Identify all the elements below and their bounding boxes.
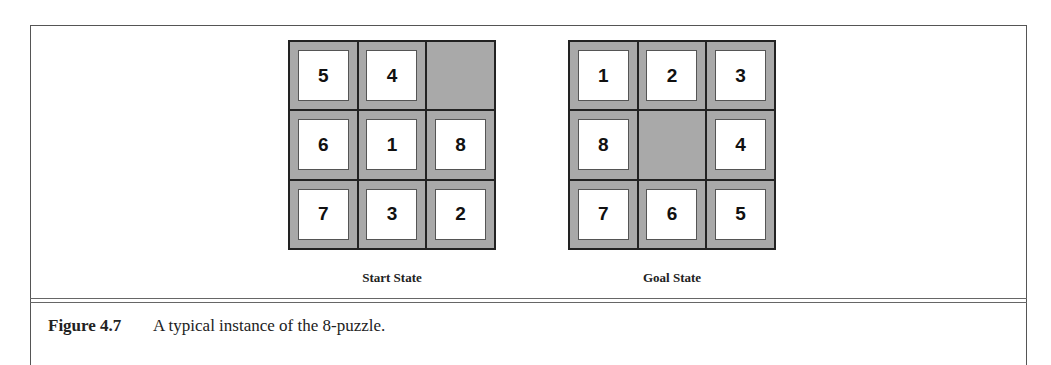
blank-cell bbox=[426, 41, 495, 110]
tile: 7 bbox=[578, 189, 629, 240]
tile: 4 bbox=[715, 119, 766, 170]
goal-state-board: 1 2 3 8 4 7 6 5 bbox=[568, 40, 776, 250]
tile: 5 bbox=[298, 50, 349, 101]
tile: 3 bbox=[715, 50, 766, 101]
tile: 3 bbox=[366, 189, 417, 240]
tile: 4 bbox=[366, 50, 417, 101]
board-cell: 8 bbox=[426, 110, 495, 179]
board-cell: 5 bbox=[289, 41, 358, 110]
tile: 6 bbox=[646, 189, 697, 240]
board-cell: 2 bbox=[638, 41, 707, 110]
board-cell: 1 bbox=[358, 110, 427, 179]
board-cell: 2 bbox=[426, 180, 495, 249]
board-cell: 4 bbox=[706, 110, 775, 179]
tile: 1 bbox=[366, 119, 417, 170]
tile: 2 bbox=[646, 50, 697, 101]
tile: 1 bbox=[578, 50, 629, 101]
tile: 5 bbox=[715, 189, 766, 240]
board-cell: 5 bbox=[706, 180, 775, 249]
tile: 2 bbox=[435, 189, 486, 240]
caption-divider-bottom bbox=[30, 302, 1027, 303]
figure-number: Figure 4.7 bbox=[48, 316, 153, 336]
blank-cell bbox=[638, 110, 707, 179]
board-cell: 8 bbox=[569, 110, 638, 179]
board-cell: 3 bbox=[706, 41, 775, 110]
board-cell: 4 bbox=[358, 41, 427, 110]
figure-frame bbox=[30, 25, 1027, 365]
start-state-label: Start State bbox=[288, 270, 496, 286]
tile: 8 bbox=[578, 119, 629, 170]
tile: 6 bbox=[298, 119, 349, 170]
start-state-board: 5 4 6 1 8 7 3 2 bbox=[288, 40, 496, 250]
board-cell: 3 bbox=[358, 180, 427, 249]
figure-caption-text: A typical instance of the 8-puzzle. bbox=[153, 316, 385, 335]
goal-state-label: Goal State bbox=[568, 270, 776, 286]
figure-caption: Figure 4.7A typical instance of the 8-pu… bbox=[48, 316, 385, 336]
board-cell: 7 bbox=[289, 180, 358, 249]
board-cell: 6 bbox=[289, 110, 358, 179]
tile: 8 bbox=[435, 119, 486, 170]
tile: 7 bbox=[298, 189, 349, 240]
board-cell: 6 bbox=[638, 180, 707, 249]
caption-divider-top bbox=[30, 298, 1027, 299]
board-cell: 7 bbox=[569, 180, 638, 249]
board-cell: 1 bbox=[569, 41, 638, 110]
